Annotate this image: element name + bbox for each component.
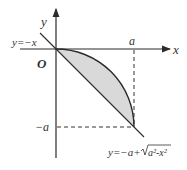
- y-axis-label: y: [39, 14, 47, 29]
- diagram-canvas: y x O a −a y=−x y=−a+ a²-x²: [0, 0, 187, 170]
- tick-label-neg-a: −a: [35, 120, 49, 134]
- line-equation-label: y=−x: [11, 36, 37, 48]
- origin-label: O: [37, 56, 47, 71]
- arc-label-prefix: y=−a+: [107, 146, 141, 158]
- arc-equation-label: y=−a+ a²-x²: [107, 145, 171, 158]
- tick-label-a: a: [129, 34, 135, 48]
- x-axis-label: x: [172, 42, 179, 57]
- arc-label-radicand: a²-x²: [148, 147, 168, 158]
